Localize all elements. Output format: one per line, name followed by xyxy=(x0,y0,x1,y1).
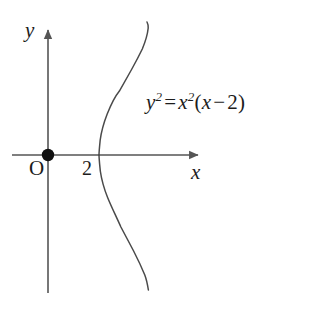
equation-rhs-exponent: 2 xyxy=(188,89,195,104)
curve-lower-branch xyxy=(99,155,148,290)
curve-equation-annotation: y2=x2(x−2) xyxy=(146,92,245,113)
x-axis-label: x xyxy=(191,162,200,183)
equation-close-paren: ) xyxy=(238,90,245,114)
math-figure: y x O 2 y2=x2(x−2) xyxy=(0,0,310,310)
equation-equals: = xyxy=(162,90,178,114)
equation-rhs-constant: 2 xyxy=(227,90,238,114)
equation-open-paren: ( xyxy=(195,90,202,114)
plot-canvas xyxy=(0,0,310,310)
equation-minus-sign: − xyxy=(211,90,227,114)
equation-rhs-variable: x xyxy=(202,90,212,114)
origin-label: O xyxy=(29,158,44,179)
equation-rhs-base: x xyxy=(178,90,188,114)
curve-upper-branch xyxy=(99,22,148,155)
x-tick-label-2: 2 xyxy=(82,158,92,178)
y-axis-label: y xyxy=(25,20,34,41)
equation-lhs-base: y xyxy=(146,90,156,114)
